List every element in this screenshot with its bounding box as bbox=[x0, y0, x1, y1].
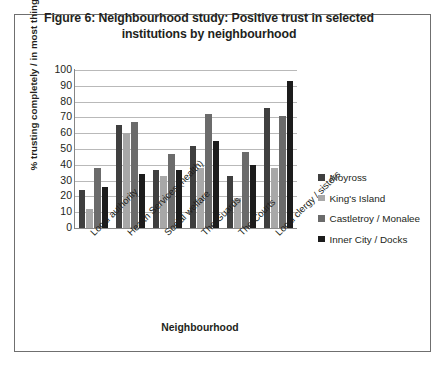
y-tick-label: 80 bbox=[42, 96, 72, 107]
axis-baseline bbox=[75, 228, 297, 229]
legend-item[interactable]: King's Island bbox=[318, 193, 428, 204]
legend-item[interactable]: Moyross bbox=[318, 172, 428, 183]
y-tick-label: 30 bbox=[42, 175, 72, 186]
y-tick-label: 10 bbox=[42, 206, 72, 217]
chart-title-line-2: institutions by neighbourhood bbox=[24, 26, 394, 42]
legend-label: King's Island bbox=[330, 193, 386, 204]
legend-swatch-icon bbox=[318, 236, 325, 243]
chart-title: Figure 6: Neighbourhood study: Positive … bbox=[24, 10, 394, 42]
y-tick-label: 100 bbox=[42, 64, 72, 75]
legend-swatch-icon bbox=[318, 215, 325, 222]
legend-item[interactable]: Castletroy / Monalee bbox=[318, 213, 428, 224]
bar[interactable] bbox=[205, 114, 211, 228]
legend-swatch-icon bbox=[318, 195, 325, 202]
bar[interactable] bbox=[123, 133, 129, 228]
legend-label: Inner City / Docks bbox=[330, 234, 408, 245]
y-tick-label: 60 bbox=[42, 127, 72, 138]
bar-group bbox=[75, 70, 112, 228]
bar[interactable] bbox=[79, 190, 85, 228]
y-tick-label: 40 bbox=[42, 159, 72, 170]
y-tick-label: 70 bbox=[42, 111, 72, 122]
bar[interactable] bbox=[271, 168, 277, 228]
y-tick-label: 20 bbox=[42, 190, 72, 201]
legend-label: Castletroy / Monalee bbox=[330, 213, 421, 224]
figure-page: Figure 6: Neighbourhood study: Positive … bbox=[0, 0, 445, 372]
legend-item[interactable]: Inner City / Docks bbox=[318, 234, 428, 245]
chart-title-line-1: Figure 6: Neighbourhood study: Positive … bbox=[44, 11, 374, 25]
chart-legend: MoyrossKing's IslandCastletroy / Monalee… bbox=[318, 172, 428, 254]
y-axis-title: % trusting completely / in most things bbox=[28, 1, 39, 171]
bar[interactable] bbox=[279, 116, 285, 228]
x-axis-title: Neighbourhood bbox=[110, 322, 290, 333]
legend-swatch-icon bbox=[318, 174, 325, 181]
y-tick-label: 50 bbox=[42, 143, 72, 154]
bar[interactable] bbox=[131, 122, 137, 228]
legend-label: Moyross bbox=[330, 172, 367, 183]
y-axis-tick-labels: 1009080706050403020100 bbox=[42, 62, 72, 238]
bar[interactable] bbox=[287, 81, 293, 228]
y-tick-label: 90 bbox=[42, 80, 72, 91]
y-tick-label: 0 bbox=[42, 222, 72, 233]
x-axis-tick-labels: Local authorityHealth Services (health)S… bbox=[75, 230, 305, 330]
